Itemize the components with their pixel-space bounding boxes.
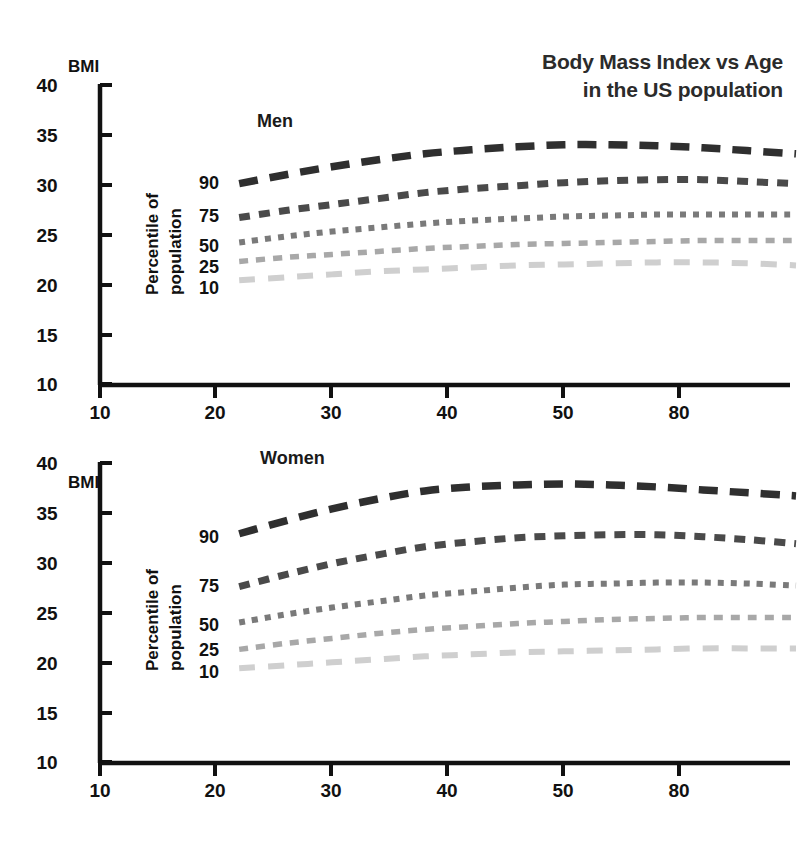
series-label-p25: 25 <box>199 640 219 660</box>
y-tick-label: 20 <box>36 653 57 674</box>
panel-label-women: Women <box>260 448 325 468</box>
y-tick-label: 30 <box>36 553 57 574</box>
y-tick-label: 25 <box>36 603 58 624</box>
x-tick-label: 20 <box>204 402 225 423</box>
x-axis-men <box>98 385 790 398</box>
y-tick-label: 20 <box>36 275 57 296</box>
y-tick-label: 30 <box>36 175 57 196</box>
curves-men <box>239 145 796 281</box>
percentile-label-line-1: Percentile of <box>143 193 162 295</box>
panel-label-men: Men <box>257 111 293 131</box>
percentile-label-line-2: population <box>166 584 185 671</box>
x-tick-label: 10 <box>89 402 110 423</box>
curves-women <box>239 484 796 668</box>
percentile-axis-label-women: Percentile of population <box>143 569 185 671</box>
y-axis-title-women: BMI <box>68 473 99 492</box>
bmi-vs-age-figure: Body Mass Index vs Age in the US populat… <box>0 0 805 852</box>
y-tick-label: 15 <box>36 703 58 724</box>
y-tick-label: 10 <box>36 752 57 773</box>
series-label-p75: 75 <box>199 206 219 226</box>
y-tick-labels-women: 40 35 30 25 20 15 10 <box>36 453 58 773</box>
percentile-label-line-2: population <box>166 208 185 295</box>
series-label-p90: 90 <box>199 527 219 547</box>
y-axis-title-men: BMI <box>68 57 99 76</box>
series-labels-women: 90 75 50 25 10 <box>199 527 219 682</box>
y-axis-women <box>100 462 112 763</box>
x-tick-label: 40 <box>436 402 457 423</box>
x-tick-label: 50 <box>552 780 573 801</box>
series-label-p75: 75 <box>199 576 219 596</box>
percentile-curve-p90 <box>239 484 796 534</box>
series-label-p50: 50 <box>199 236 219 256</box>
series-label-p10: 10 <box>199 278 219 298</box>
x-tick-label: 40 <box>436 780 457 801</box>
percentile-curve-p50 <box>239 214 796 242</box>
percentile-curve-p75 <box>239 179 796 217</box>
series-label-p10: 10 <box>199 662 219 682</box>
percentile-curve-p10 <box>239 648 796 668</box>
chart-panel-men: BMI 40 35 30 25 20 15 10 <box>0 0 805 426</box>
y-tick-label: 15 <box>36 325 58 346</box>
x-tick-label: 20 <box>204 780 225 801</box>
percentile-curve-p90 <box>239 145 796 184</box>
percentile-curve-p75 <box>239 535 796 587</box>
percentile-label-line-1: Percentile of <box>143 569 162 671</box>
x-tick-label: 80 <box>668 402 689 423</box>
x-tick-label: 10 <box>89 780 110 801</box>
y-tick-label: 35 <box>36 503 58 524</box>
x-axis-women <box>98 763 790 776</box>
x-tick-label: 30 <box>320 780 341 801</box>
series-label-p25: 25 <box>199 257 219 277</box>
series-label-p90: 90 <box>199 173 219 193</box>
y-tick-label: 10 <box>36 374 57 395</box>
percentile-axis-label-men: Percentile of population <box>143 193 185 295</box>
series-labels-men: 90 75 50 25 10 <box>199 173 219 298</box>
y-tick-label: 40 <box>36 75 57 96</box>
percentile-curve-p10 <box>239 262 796 280</box>
x-tick-labels-women: 10 20 30 40 50 80 <box>89 780 689 801</box>
y-tick-label: 25 <box>36 225 58 246</box>
y-axis-men <box>100 84 112 385</box>
x-tick-label: 50 <box>552 402 573 423</box>
percentile-curve-p25 <box>239 617 796 649</box>
x-tick-label: 30 <box>320 402 341 423</box>
y-tick-label: 40 <box>36 453 57 474</box>
chart-panel-women: BMI 40 35 30 25 20 15 10 <box>0 426 805 852</box>
percentile-curve-p50 <box>239 582 796 622</box>
y-tick-labels-men: 40 35 30 25 20 15 10 <box>36 75 58 395</box>
series-label-p50: 50 <box>199 615 219 635</box>
x-tick-labels-men: 10 20 30 40 50 80 <box>89 402 689 423</box>
percentile-curve-p25 <box>239 240 796 261</box>
y-tick-label: 35 <box>36 125 58 146</box>
x-tick-label: 80 <box>668 780 689 801</box>
